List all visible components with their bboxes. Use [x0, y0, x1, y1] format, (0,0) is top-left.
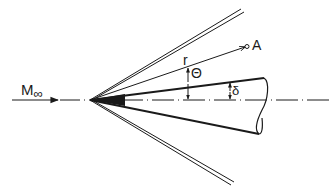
- cone-base-ellipse: [256, 78, 267, 134]
- point-a-marker: [245, 45, 249, 49]
- point-a-label: A: [252, 38, 261, 52]
- lower-shock: [90, 100, 234, 185]
- radius-ray: [90, 47, 245, 100]
- delta-label: δ: [232, 84, 239, 97]
- upper-shock: [90, 9, 244, 100]
- radius-label: r: [183, 53, 188, 67]
- freestream-mach-label: M∞: [21, 82, 43, 100]
- theta-label: Θ: [191, 66, 202, 80]
- cone-flow-diagram: [0, 0, 336, 194]
